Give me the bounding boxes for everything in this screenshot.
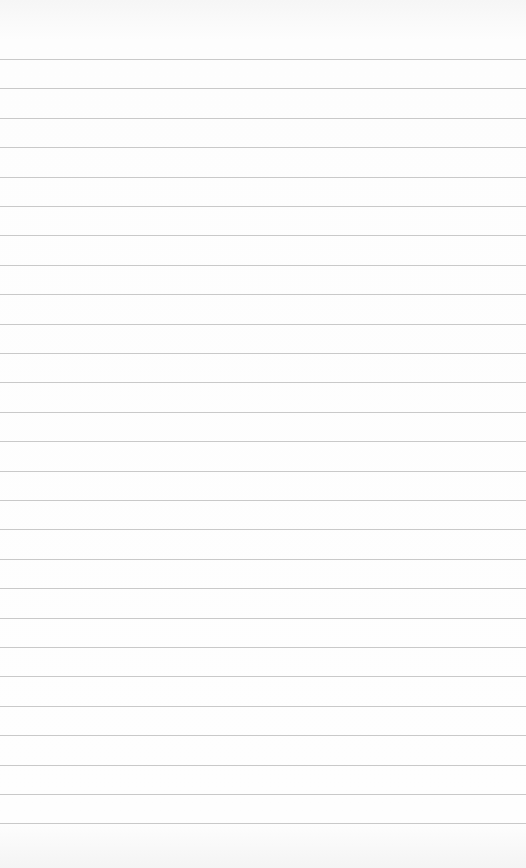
ruled-line (0, 676, 526, 677)
ruled-line (0, 235, 526, 236)
ruled-line (0, 823, 526, 824)
ruled-line (0, 647, 526, 648)
ruled-line (0, 559, 526, 560)
ruled-line (0, 147, 526, 148)
ruled-line (0, 324, 526, 325)
ruled-line (0, 88, 526, 89)
lined-paper (0, 0, 526, 868)
ruled-line (0, 471, 526, 472)
ruled-line (0, 59, 526, 60)
ruled-line (0, 177, 526, 178)
ruled-line (0, 353, 526, 354)
ruled-line (0, 500, 526, 501)
ruled-line (0, 118, 526, 119)
ruled-line (0, 735, 526, 736)
ruled-line (0, 206, 526, 207)
ruled-line (0, 588, 526, 589)
ruled-line (0, 618, 526, 619)
ruled-line (0, 441, 526, 442)
ruled-line (0, 706, 526, 707)
ruled-line (0, 412, 526, 413)
ruled-line (0, 765, 526, 766)
ruled-line (0, 529, 526, 530)
ruled-line (0, 294, 526, 295)
ruled-line (0, 265, 526, 266)
ruled-line (0, 794, 526, 795)
ruled-line (0, 382, 526, 383)
